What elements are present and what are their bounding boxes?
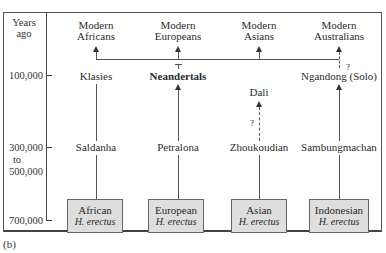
klasies-label: Klasies: [56, 71, 136, 82]
tick-label-500000: 500,000: [2, 166, 43, 177]
ngandong-label: Ngandong (Solo): [285, 71, 386, 82]
indonesian-erectus-box: IndonesianH. erectus: [309, 199, 369, 233]
petralona-label: Petralona: [138, 142, 218, 153]
lineage-line: [339, 90, 340, 141]
tick-label-300000: 300,000: [2, 142, 43, 153]
gene-flow-line: [96, 59, 247, 60]
european-erectus-box: EuropeanH. erectus: [148, 199, 204, 233]
lineage-line: [178, 155, 179, 199]
connector-line: [259, 52, 260, 59]
asian-erectus-box: AsianH. erectus: [231, 199, 287, 233]
zhoukoudian-label: Zhoukoudian: [219, 142, 299, 153]
figure-caption: (b): [3, 238, 16, 250]
uncertain-lineage-line: [259, 107, 260, 141]
connector-line: [96, 52, 97, 59]
uncertain-lineage-line: [339, 52, 340, 68]
modern-australians-label: ModernAustralians: [294, 20, 384, 42]
connector-line: [178, 52, 179, 59]
dali-label: Dali: [219, 87, 299, 98]
axis-title-line1: Years: [12, 17, 35, 28]
uncertain-marker: ?: [250, 118, 254, 128]
lineage-line: [96, 155, 97, 199]
saldanha-label: Saldanha: [56, 142, 136, 153]
modern-africans-label: ModernAfricans: [56, 20, 136, 42]
lineage-line: [178, 90, 179, 141]
time-axis: [46, 12, 47, 221]
modern-asians-label: ModernAsians: [219, 20, 299, 42]
tick-700000: [46, 220, 52, 221]
lineage-line: [339, 155, 340, 199]
lineage-line: [96, 84, 97, 141]
axis-title-line2: ago: [16, 28, 31, 39]
lineage-line: [259, 155, 260, 199]
modern-europeans-label: ModernEuropeans: [138, 20, 218, 42]
tick-100000: [46, 75, 52, 76]
tick-300000: [46, 147, 52, 148]
african-erectus-box: AfricanH. erectus: [67, 199, 123, 233]
neandertals-label: Neandertals: [130, 71, 226, 82]
sambungmachan-label: Sambungmachan: [289, 142, 386, 153]
axis-title: Years ago: [4, 17, 44, 39]
gene-flow-line: [247, 59, 339, 60]
tick-label-to: to: [2, 154, 32, 165]
tick-label-100000: 100,000: [2, 70, 43, 81]
connector-line: [178, 64, 179, 69]
tick-label-700000: 700,000: [2, 215, 43, 226]
